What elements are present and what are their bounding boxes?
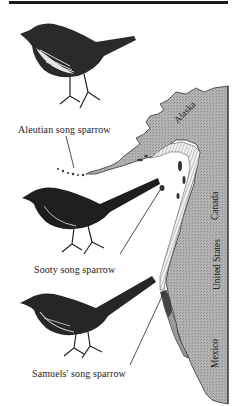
- bird-sooty-illustration: [22, 178, 160, 254]
- figure-artwork: [0, 0, 236, 406]
- aleutian-islands: [57, 168, 84, 176]
- label-samuels-song-sparrow: Samuels' song sparrow: [32, 368, 126, 379]
- bird-aleutian-illustration: [20, 24, 136, 108]
- map-label-mexico: Mexico: [210, 339, 220, 368]
- map-label-canada: Canada: [210, 192, 220, 221]
- leader-aleutian: [66, 136, 74, 168]
- label-sooty-song-sparrow: Sooty song sparrow: [34, 264, 115, 275]
- map-label-united-states: United States: [212, 239, 222, 290]
- label-aleutian-song-sparrow: Aleutian song sparrow: [18, 124, 111, 135]
- leader-samuels: [130, 292, 164, 365]
- bird-samuels-illustration: [20, 276, 156, 358]
